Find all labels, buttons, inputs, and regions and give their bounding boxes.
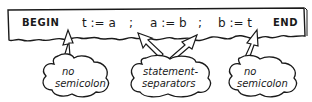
callout-middle-line2: separators: [142, 78, 195, 90]
cloud-right: [229, 55, 296, 96]
diagram-canvas: BEGIN t := a ; a := b ; b := t END no se…: [0, 0, 312, 102]
keyword-begin: BEGIN: [22, 17, 59, 28]
statement-1: t := a: [82, 16, 116, 30]
separator-1: ;: [129, 16, 133, 30]
callout-left-line1: no: [62, 66, 74, 78]
callout-middle-line1: statement-: [143, 66, 198, 78]
separator-2: ;: [198, 16, 202, 30]
cloud-left: [43, 54, 108, 97]
keyword-end: END: [273, 17, 298, 28]
statement-3: b := t: [218, 16, 252, 30]
statement-2: a := b: [150, 16, 187, 30]
callout-right-line2: semicolon: [237, 78, 288, 90]
callout-right-line1: no: [244, 66, 256, 78]
callout-left-line2: semicolon: [55, 78, 106, 90]
